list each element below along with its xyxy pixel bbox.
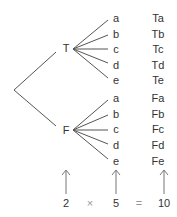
outcome-Fe: Fe xyxy=(152,155,165,167)
leaf-T-d: d xyxy=(113,59,119,71)
branch-F-d xyxy=(73,130,108,144)
branch-F-b xyxy=(73,115,108,130)
branch-T-e xyxy=(73,49,108,78)
arrow-up-icon xyxy=(112,170,120,194)
outcome-Fc: Fc xyxy=(152,123,164,135)
arrow-up-icon xyxy=(62,170,70,194)
branch-T-a xyxy=(73,20,108,49)
equation-equals-sign: = xyxy=(136,197,142,209)
node-T: T xyxy=(63,42,70,54)
leaf-T-b: b xyxy=(113,28,119,40)
outcome-Fd: Fd xyxy=(152,139,165,151)
leaf-T-a: a xyxy=(113,12,119,24)
branch-F-e xyxy=(73,130,108,159)
root-branches xyxy=(14,52,56,126)
outcome-Fa: Fa xyxy=(152,92,165,104)
arrows xyxy=(62,170,168,194)
leaf-T-e: e xyxy=(113,74,119,86)
T-fan-branches xyxy=(73,20,108,78)
outcome-Tc: Tc xyxy=(153,43,164,55)
outcome-Td: Td xyxy=(152,59,165,71)
leaf-F-e: e xyxy=(113,155,119,167)
equation-factor-1: 2 xyxy=(63,197,69,209)
leaf-F-a: a xyxy=(113,92,119,104)
leaf-T-c: c xyxy=(113,43,119,55)
arrow-up-icon xyxy=(160,170,168,194)
node-F: F xyxy=(63,124,70,136)
outcome-Ta: Ta xyxy=(152,12,164,24)
F-fan-branches xyxy=(73,100,108,159)
outcome-Fb: Fb xyxy=(152,108,165,120)
branch-F-a xyxy=(73,100,108,130)
branch-T-b xyxy=(73,35,108,49)
branch-root-F xyxy=(14,90,56,126)
leaf-F-d: d xyxy=(113,139,119,151)
equation-times-sign: × xyxy=(87,197,93,209)
outcome-Tb: Tb xyxy=(152,28,165,40)
equation-factor-2: 5 xyxy=(113,197,119,209)
leaf-F-b: b xyxy=(113,108,119,120)
equation-result: 10 xyxy=(158,197,170,209)
tree-diagram-lines xyxy=(0,0,177,217)
leaf-F-c: c xyxy=(113,123,119,135)
outcome-Te: Te xyxy=(152,74,164,86)
branch-root-T xyxy=(14,52,56,90)
branch-T-d xyxy=(73,49,108,63)
